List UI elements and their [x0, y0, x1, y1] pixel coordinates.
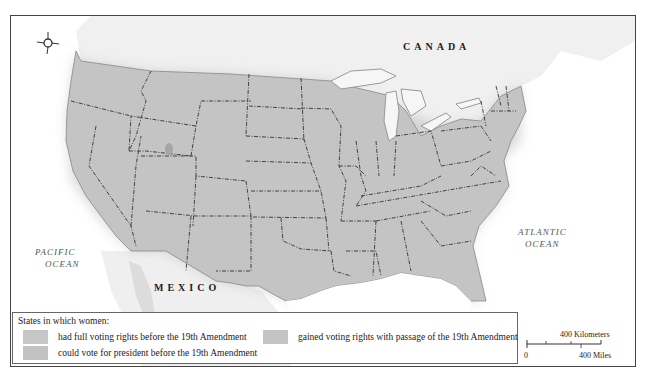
scale-zero-label: 0: [524, 351, 528, 360]
atlantic-ocean-label: ATLANTIC OCEAN: [518, 226, 567, 250]
legend: States in which women: had full voting r…: [12, 312, 518, 364]
scale-km-label: 400 Kilometers: [560, 330, 610, 339]
scale-bar-graphic: [521, 321, 631, 366]
canada-label: CANADA: [403, 41, 470, 52]
legend-item-president-vote: could vote for president before the 19th…: [23, 346, 257, 360]
mexico-label: MEXICO: [154, 282, 220, 293]
legend-label: could vote for president before the 19th…: [58, 348, 257, 358]
great-salt-lake: [165, 143, 173, 155]
atlantic-ocean-line1: ATLANTIC: [518, 226, 567, 238]
legend-swatch: [23, 330, 48, 344]
legend-swatch: [263, 330, 288, 344]
legend-swatch: [23, 346, 48, 360]
legend-label: had full voting rights before the 19th A…: [58, 332, 247, 342]
map-frame: CANADA MEXICO PACIFIC OCEAN ATLANTIC OCE…: [10, 15, 636, 367]
pacific-ocean-line1: PACIFIC: [31, 246, 80, 258]
legend-label: gained voting rights with passage of the…: [298, 332, 518, 342]
legend-title: States in which women:: [18, 316, 109, 326]
pacific-ocean-label: PACIFIC OCEAN: [31, 246, 80, 270]
scale-miles-label: 400 Miles: [579, 351, 611, 360]
legend-item-19th-amendment: gained voting rights with passage of the…: [263, 330, 518, 344]
pacific-ocean-line2: OCEAN: [31, 258, 80, 270]
legend-item-full-rights: had full voting rights before the 19th A…: [23, 330, 247, 344]
scale-bar: 400 Kilometers 0 400 Miles: [521, 321, 631, 366]
atlantic-ocean-line2: OCEAN: [518, 238, 567, 250]
compass-rose-icon: [33, 28, 63, 58]
